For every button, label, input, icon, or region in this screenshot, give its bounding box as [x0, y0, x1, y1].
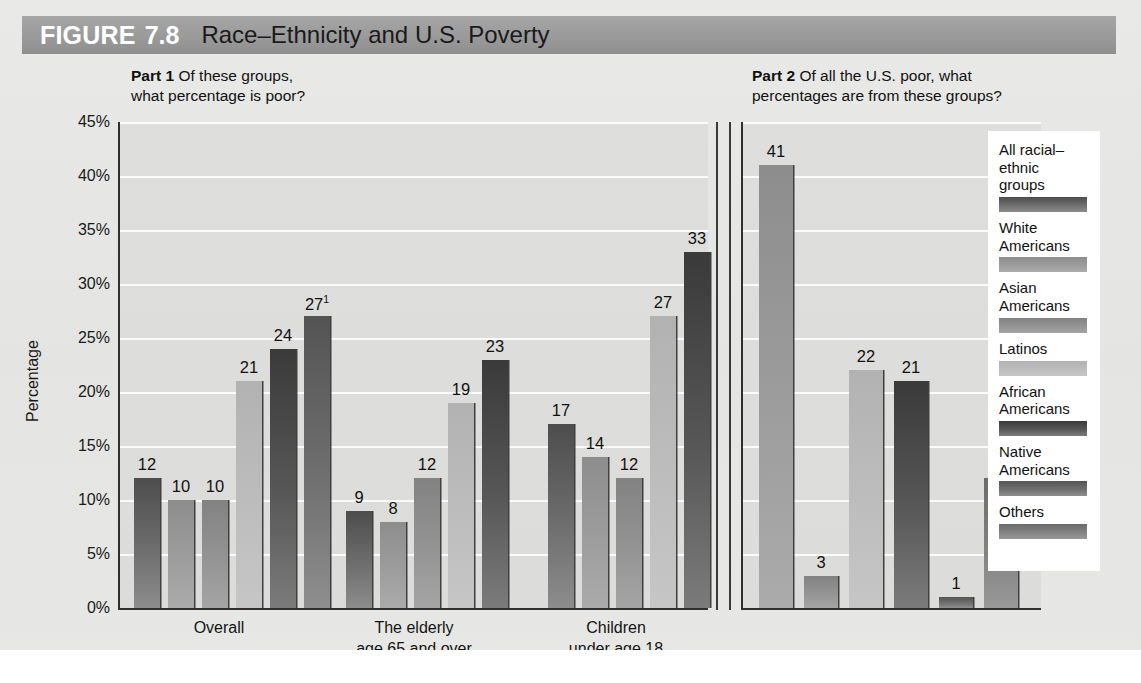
legend-swatch — [999, 197, 1087, 212]
bar-value-label: 271 — [305, 293, 329, 314]
legend-swatch — [999, 257, 1087, 272]
legend-item[interactable]: African Americans — [999, 383, 1091, 436]
figure-container: FIGURE 7.8 Race–Ethnicity and U.S. Pover… — [0, 0, 1141, 650]
gridline — [118, 230, 708, 232]
y-tick-label: 30% — [52, 275, 110, 293]
legend-item-label: Native Americans — [999, 443, 1091, 478]
gridline — [118, 176, 708, 178]
legend-swatch — [999, 481, 1087, 496]
bar: 21 — [236, 381, 262, 608]
legend-item-label: Others — [999, 503, 1091, 521]
bar: 9 — [346, 511, 372, 608]
bar: 19 — [448, 403, 474, 608]
gridline — [118, 122, 708, 124]
x-axis-line — [118, 608, 708, 610]
legend-item[interactable]: Others — [999, 503, 1091, 539]
bar-value-label: 41 — [767, 142, 785, 161]
bar-value-label: 10 — [206, 477, 224, 496]
bar-value-label: 12 — [418, 455, 436, 474]
part1-plot-area: 1210102124271981219231714122733 — [118, 122, 708, 608]
bar-value-label: 1 — [951, 574, 960, 593]
bar: 271 — [304, 316, 330, 608]
bar-value-label: 27 — [654, 293, 672, 312]
part1-caption: Part 1 Of these groups, what percentage … — [131, 66, 431, 106]
figure-title-bar: FIGURE 7.8 Race–Ethnicity and U.S. Pover… — [22, 16, 1116, 54]
legend-item[interactable]: All racial– ethnic groups — [999, 141, 1091, 212]
y-tick-label: 15% — [52, 437, 110, 455]
legend-swatch — [999, 318, 1087, 333]
chart-legend: All racial– ethnic groupsWhite Americans… — [988, 131, 1100, 571]
bar-value-label: 33 — [688, 229, 706, 248]
bar: 21 — [894, 381, 928, 608]
legend-item-label: White Americans — [999, 219, 1091, 254]
bar-value-label: 21 — [240, 358, 258, 377]
legend-item-label: Latinos — [999, 340, 1091, 358]
y-tick-label: 25% — [52, 329, 110, 347]
bar-value-label: 12 — [620, 455, 638, 474]
bar: 23 — [482, 360, 508, 608]
bar-value-label: 23 — [486, 337, 504, 356]
bar-value-label: 3 — [816, 553, 825, 572]
y-tick-label: 20% — [52, 383, 110, 401]
gridline — [118, 284, 708, 286]
bar: 41 — [759, 165, 793, 608]
bar: 12 — [134, 478, 160, 608]
bar: 1 — [939, 597, 973, 608]
x-axis-line — [741, 608, 1041, 610]
gridline — [118, 446, 708, 448]
bar: 12 — [414, 478, 440, 608]
gridline — [741, 122, 1041, 124]
bar-value-label: 19 — [452, 380, 470, 399]
y-tick-label: 0% — [52, 599, 110, 617]
legend-item-label: All racial– ethnic groups — [999, 141, 1091, 194]
part2-tag: Part 2 — [752, 67, 795, 84]
bar-value-label: 14 — [586, 434, 604, 453]
y-tick-label: 45% — [52, 113, 110, 131]
part1-tag: Part 1 — [131, 67, 174, 84]
bar-value-label: 21 — [902, 358, 920, 377]
group-label: Overall — [104, 618, 334, 639]
group-label: Children under age 18 — [518, 618, 714, 660]
y-axis-line — [118, 122, 120, 608]
bar-value-label: 10 — [172, 477, 190, 496]
bar: 10 — [202, 500, 228, 608]
gridline — [118, 338, 708, 340]
bar: 27 — [650, 316, 676, 608]
bar-value-label: 9 — [354, 488, 363, 507]
gridline — [118, 392, 708, 394]
bar-value-label: 22 — [857, 347, 875, 366]
figure-label: FIGURE — [40, 21, 136, 50]
y-axis-line — [741, 122, 743, 608]
legend-swatch — [999, 361, 1087, 376]
bar: 3 — [804, 576, 838, 608]
bar: 10 — [168, 500, 194, 608]
page-title: Race–Ethnicity and U.S. Poverty — [201, 21, 549, 49]
legend-swatch — [999, 524, 1087, 539]
bar: 22 — [849, 370, 883, 608]
legend-item[interactable]: Latinos — [999, 340, 1091, 376]
bar: 33 — [684, 252, 710, 608]
bar: 24 — [270, 349, 296, 608]
bar: 8 — [380, 522, 406, 608]
legend-item[interactable]: Asian Americans — [999, 279, 1091, 332]
legend-item[interactable]: White Americans — [999, 219, 1091, 272]
panel-divider-left — [716, 122, 718, 610]
bar-value-label: 17 — [552, 401, 570, 420]
legend-item[interactable]: Native Americans — [999, 443, 1091, 496]
y-axis: Percentage 45%40%35%30%25%20%15%10%5%0% — [48, 122, 110, 608]
bar: 17 — [548, 424, 574, 608]
bar-value-label: 24 — [274, 326, 292, 345]
bar: 12 — [616, 478, 642, 608]
bar: 14 — [582, 457, 608, 608]
y-tick-label: 35% — [52, 221, 110, 239]
y-tick-label: 10% — [52, 491, 110, 509]
y-axis-title: Percentage — [24, 340, 42, 422]
part2-caption: Part 2 Of all the U.S. poor, what percen… — [752, 66, 1082, 106]
y-tick-label: 5% — [52, 545, 110, 563]
panel-divider-right — [729, 122, 731, 610]
figure-number: 7.8 — [145, 21, 180, 50]
bar-value-label: 12 — [138, 455, 156, 474]
bar-value-label: 8 — [388, 499, 397, 518]
legend-item-label: Asian Americans — [999, 279, 1091, 314]
y-tick-label: 40% — [52, 167, 110, 185]
